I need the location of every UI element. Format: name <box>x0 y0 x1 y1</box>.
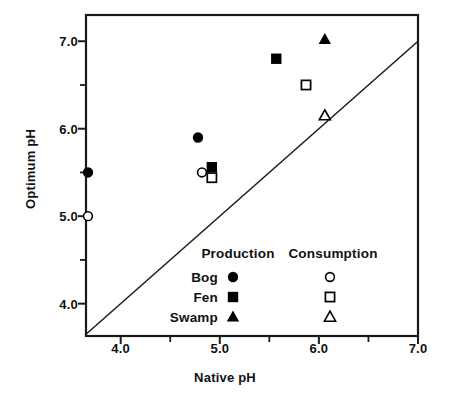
plot-frame <box>86 15 418 336</box>
legend-column-header-consumption: Consumption <box>288 246 377 261</box>
y-axis-title: Optimum pH <box>23 129 38 209</box>
data-point-open-circle <box>198 168 207 177</box>
data-points-layer <box>83 33 331 220</box>
legend-row-label-fen: Fen <box>193 290 218 305</box>
data-point-filled-circle <box>193 132 203 142</box>
data-point-filled-circle <box>83 167 93 177</box>
y-axis-title-wrapper: Optimum pH <box>21 79 39 259</box>
y-tick-label: 7.0 <box>32 34 78 49</box>
legend-markers-layer <box>227 272 336 322</box>
x-tick-label: 5.0 <box>210 341 229 356</box>
one-to-one-line <box>86 41 418 334</box>
x-tick-label: 4.0 <box>111 341 130 356</box>
data-point-filled-square <box>207 162 217 172</box>
legend-marker-swamp-production <box>227 311 239 322</box>
data-point-filled-triangle <box>319 33 331 44</box>
data-point-open-square <box>301 80 310 89</box>
x-tick-label: 7.0 <box>409 341 428 356</box>
legend-marker-fen-consumption <box>325 292 334 301</box>
y-tick-label: 5.0 <box>32 209 78 224</box>
legend-marker-bog-consumption <box>326 273 335 282</box>
y-tick-label: 4.0 <box>32 296 78 311</box>
legend-marker-swamp-consumption <box>324 311 335 321</box>
data-point-filled-square <box>271 54 281 64</box>
legend-marker-fen-production <box>228 292 238 302</box>
x-tick-label: 6.0 <box>310 341 329 356</box>
plot-border <box>86 15 418 336</box>
data-point-open-circle <box>84 212 93 221</box>
legend-marker-bog-production <box>228 272 238 282</box>
x-axis-title: Native pH <box>0 370 450 385</box>
data-point-open-triangle <box>319 110 330 120</box>
legend-row-label-bog: Bog <box>191 270 218 285</box>
data-point-open-square <box>207 173 216 182</box>
legend-column-header-production: Production <box>201 246 274 261</box>
reference-line-1to1 <box>86 41 418 334</box>
y-tick-label: 6.0 <box>32 121 78 136</box>
chart-figure: Native pH Optimum pH 4.05.06.07.0 4.05.0… <box>0 0 450 402</box>
legend-row-label-swamp: Swamp <box>170 310 218 325</box>
